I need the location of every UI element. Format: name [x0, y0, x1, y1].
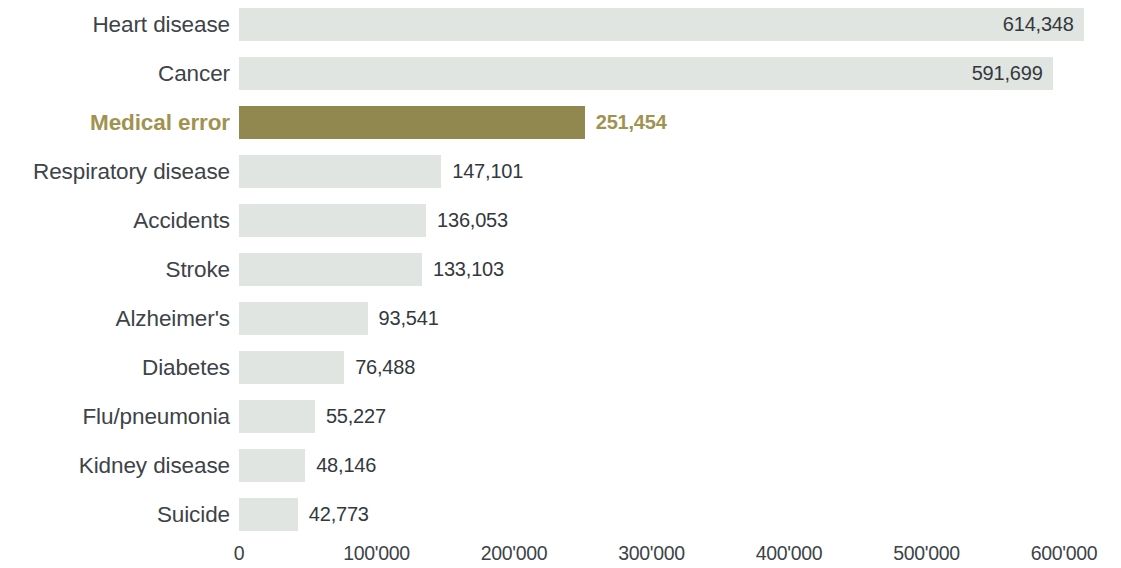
- bar: 251,454: [239, 106, 585, 139]
- bar-row: Accidents136,053: [0, 196, 1121, 245]
- value-label: 133,103: [433, 253, 504, 286]
- bar-row: Suicide42,773: [0, 490, 1121, 539]
- value-label: 93,541: [379, 302, 439, 335]
- category-label: Suicide: [0, 490, 230, 539]
- x-tick-label: 400'000: [756, 539, 823, 568]
- x-tick-label: 100'000: [343, 539, 410, 568]
- value-label: 614,348: [1003, 8, 1074, 41]
- category-label: Stroke: [0, 245, 230, 294]
- bar-track: 136,053: [239, 204, 1099, 237]
- bar-row: Medical error251,454: [0, 98, 1121, 147]
- value-label: 591,699: [972, 57, 1043, 90]
- bar-rows: Heart disease614,348Cancer591,699Medical…: [0, 0, 1121, 539]
- bar: 93,541: [239, 302, 368, 335]
- bar-row: Respiratory disease147,101: [0, 147, 1121, 196]
- category-label: Medical error: [0, 98, 230, 147]
- bar-track: 147,101: [239, 155, 1099, 188]
- bar: 55,227: [239, 400, 315, 433]
- category-label: Respiratory disease: [0, 147, 230, 196]
- category-label: Heart disease: [0, 0, 230, 49]
- x-axis: 0100'000200'000300'000400'000500'000600'…: [0, 539, 1121, 568]
- category-label: Accidents: [0, 196, 230, 245]
- bar-row: Stroke133,103: [0, 245, 1121, 294]
- bar: 48,146: [239, 449, 305, 482]
- value-label: 55,227: [326, 400, 386, 433]
- value-label: 42,773: [309, 498, 369, 531]
- value-label: 76,488: [355, 351, 415, 384]
- bar-row: Flu/pneumonia55,227: [0, 392, 1121, 441]
- bar-row: Kidney disease48,146: [0, 441, 1121, 490]
- category-label: Kidney disease: [0, 441, 230, 490]
- bar: 591,699: [239, 57, 1053, 90]
- bar: 136,053: [239, 204, 426, 237]
- x-tick-label: 200'000: [481, 539, 548, 568]
- bar-track: 251,454: [239, 106, 1099, 139]
- bar-track: 93,541: [239, 302, 1099, 335]
- bar: 147,101: [239, 155, 441, 188]
- bar-track: 133,103: [239, 253, 1099, 286]
- bar-row: Diabetes76,488: [0, 343, 1121, 392]
- x-tick-label: 600'000: [1031, 539, 1098, 568]
- category-label: Diabetes: [0, 343, 230, 392]
- value-label: 251,454: [596, 106, 667, 139]
- bar-row: Cancer591,699: [0, 49, 1121, 98]
- bar: 42,773: [239, 498, 298, 531]
- bar: 133,103: [239, 253, 422, 286]
- bar-track: 55,227: [239, 400, 1099, 433]
- bar-track: 48,146: [239, 449, 1099, 482]
- category-label: Alzheimer's: [0, 294, 230, 343]
- value-label: 147,101: [452, 155, 523, 188]
- value-label: 48,146: [316, 449, 376, 482]
- bar: 76,488: [239, 351, 344, 384]
- bar: 614,348: [239, 8, 1084, 41]
- x-tick-label: 0: [234, 539, 245, 568]
- x-tick-label: 300'000: [618, 539, 685, 568]
- bar-track: 76,488: [239, 351, 1099, 384]
- category-label: Flu/pneumonia: [0, 392, 230, 441]
- x-tick-label: 500'000: [893, 539, 960, 568]
- bar-track: 614,348: [239, 8, 1099, 41]
- bar-row: Alzheimer's93,541: [0, 294, 1121, 343]
- bar-chart: Heart disease614,348Cancer591,699Medical…: [0, 0, 1121, 568]
- bar-row: Heart disease614,348: [0, 0, 1121, 49]
- bar-track: 591,699: [239, 57, 1099, 90]
- category-label: Cancer: [0, 49, 230, 98]
- bar-track: 42,773: [239, 498, 1099, 531]
- value-label: 136,053: [437, 204, 508, 237]
